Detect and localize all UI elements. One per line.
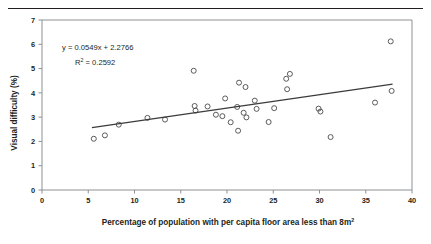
- regression-annotation: y = 0.0549x + 2.2766 R2 = 0.2592: [62, 43, 133, 67]
- data-point: [328, 135, 333, 140]
- data-point: [228, 120, 233, 125]
- x-tick-label: 25: [269, 196, 277, 205]
- x-tick-label: 10: [130, 196, 138, 205]
- r-squared-label: R2 = 0.2592: [75, 57, 115, 67]
- data-point: [241, 110, 246, 115]
- regression-equation-label: y = 0.0549x + 2.2766: [62, 43, 133, 52]
- y-axis-ticks: [39, 20, 43, 190]
- data-point: [266, 120, 271, 125]
- data-point: [389, 88, 394, 93]
- data-point: [388, 39, 393, 44]
- data-point: [237, 80, 242, 85]
- data-point: [91, 136, 96, 141]
- data-point: [284, 76, 289, 81]
- y-tick-label: 0: [31, 186, 35, 195]
- data-point: [254, 106, 259, 111]
- y-axis-title: Visual difficulty (%): [10, 75, 19, 151]
- x-tick-label: 40: [408, 196, 416, 205]
- x-tick-label: 30: [315, 196, 323, 205]
- y-tick-label: 2: [31, 137, 35, 146]
- x-tick-label: 35: [362, 196, 370, 205]
- x-axis-tick-labels: 0510152025303540: [40, 196, 416, 205]
- data-point: [102, 133, 107, 138]
- data-point: [191, 68, 196, 73]
- data-point: [205, 104, 210, 109]
- top-divider-rule: [8, 8, 423, 9]
- y-tick-label: 4: [31, 89, 36, 98]
- data-point: [373, 100, 378, 105]
- data-point: [252, 98, 257, 103]
- x-tick-label: 5: [86, 196, 90, 205]
- data-point: [213, 112, 218, 117]
- y-axis-tick-labels: 01234567: [31, 16, 36, 195]
- data-point: [220, 114, 225, 119]
- data-point: [192, 103, 197, 108]
- data-point: [243, 85, 248, 90]
- data-point: [272, 106, 277, 111]
- y-tick-label: 5: [31, 64, 35, 73]
- data-point: [287, 71, 292, 76]
- data-point: [285, 87, 290, 92]
- y-tick-label: 3: [31, 113, 35, 122]
- data-point: [244, 115, 249, 120]
- x-tick-label: 0: [40, 196, 44, 205]
- y-tick-label: 6: [31, 40, 35, 49]
- scatter-chart: 0510152025303540 01234567 y = 0.0549x + …: [0, 12, 431, 244]
- x-axis-ticks: [42, 190, 412, 194]
- y-tick-label: 1: [31, 161, 35, 170]
- trendline: [92, 84, 393, 127]
- x-axis-title: Percentage of population with per capita…: [102, 217, 354, 227]
- x-tick-label: 15: [177, 196, 185, 205]
- plot-svg: 0510152025303540 01234567 y = 0.0549x + …: [0, 12, 431, 244]
- x-tick-label: 20: [223, 196, 231, 205]
- figure-container: 0510152025303540 01234567 y = 0.0549x + …: [0, 0, 431, 244]
- y-tick-label: 7: [31, 16, 35, 25]
- data-point: [223, 96, 228, 101]
- data-point: [236, 128, 241, 133]
